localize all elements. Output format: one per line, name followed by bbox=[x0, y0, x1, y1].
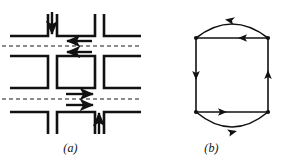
graph-vertices-group bbox=[194, 36, 270, 114]
vertex-bottom-right bbox=[266, 110, 270, 114]
vertex-top-right bbox=[266, 36, 270, 40]
block-bottom-right bbox=[104, 112, 141, 134]
block-middle-center bbox=[57, 56, 95, 88]
block-middle-left bbox=[10, 56, 48, 88]
graph-straight-edges-group bbox=[196, 38, 268, 112]
panel-b-caption: (b) bbox=[141, 141, 282, 156]
arrowhead-bottom-curved bbox=[227, 130, 237, 137]
vertex-top-left bbox=[194, 36, 198, 40]
block-bottom-center bbox=[57, 112, 95, 134]
panel-a-street-grid: (a) bbox=[0, 0, 141, 160]
block-top-left bbox=[10, 14, 48, 36]
block-middle-right bbox=[104, 56, 141, 88]
traffic-arrows-group bbox=[52, 12, 99, 134]
vertex-bottom-left bbox=[194, 110, 198, 114]
figure-container: (a) bbox=[0, 0, 282, 160]
panel-a-caption: (a) bbox=[0, 141, 141, 156]
block-bottom-left bbox=[10, 112, 48, 134]
city-blocks-group bbox=[10, 14, 141, 134]
directed-graph-drawing bbox=[141, 0, 282, 140]
street-grid-drawing bbox=[0, 0, 141, 140]
block-top-center bbox=[57, 14, 95, 36]
edge-top-curved bbox=[196, 24, 268, 38]
panel-b-directed-graph: (b) bbox=[141, 0, 282, 160]
edge-bottom-curved bbox=[196, 112, 268, 127]
block-top-right bbox=[104, 14, 141, 36]
road-center-lines-group bbox=[2, 46, 139, 99]
